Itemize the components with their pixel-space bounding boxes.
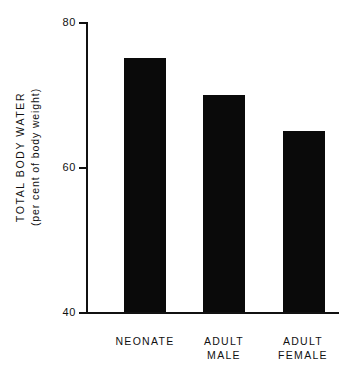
x-axis-line (86, 312, 339, 314)
y-tick-label-80: 80 (63, 16, 76, 28)
x-label-neonate: NEONATE (100, 334, 190, 348)
bar-adult-female (283, 131, 325, 312)
y-axis-title-line1: TOTAL BODY WATER (13, 88, 28, 226)
y-tick-mark-60 (79, 167, 87, 169)
y-axis-title: TOTAL BODY WATER (per cent of body weigh… (0, 0, 56, 314)
bar-neonate (124, 58, 166, 312)
bar-adult-male (203, 95, 245, 313)
x-label-adult-female: ADULT FEMALE (258, 334, 347, 362)
y-tick-mark-40 (79, 312, 87, 314)
y-tick-label-40: 40 (63, 306, 76, 318)
y-axis-title-line2: (per cent of body weight) (28, 88, 43, 226)
y-tick-mark-80 (79, 22, 87, 24)
x-label-adult-male: ADULT MALE (179, 334, 269, 362)
y-axis-title-rotated: TOTAL BODY WATER (per cent of body weigh… (13, 88, 43, 226)
plot-area: 80 60 40 20 0 NEONATE ADULT MALE ADULT F… (86, 22, 339, 314)
bar-chart-figure: TOTAL BODY WATER (per cent of body weigh… (0, 0, 347, 370)
y-tick-label-60: 60 (63, 161, 76, 173)
